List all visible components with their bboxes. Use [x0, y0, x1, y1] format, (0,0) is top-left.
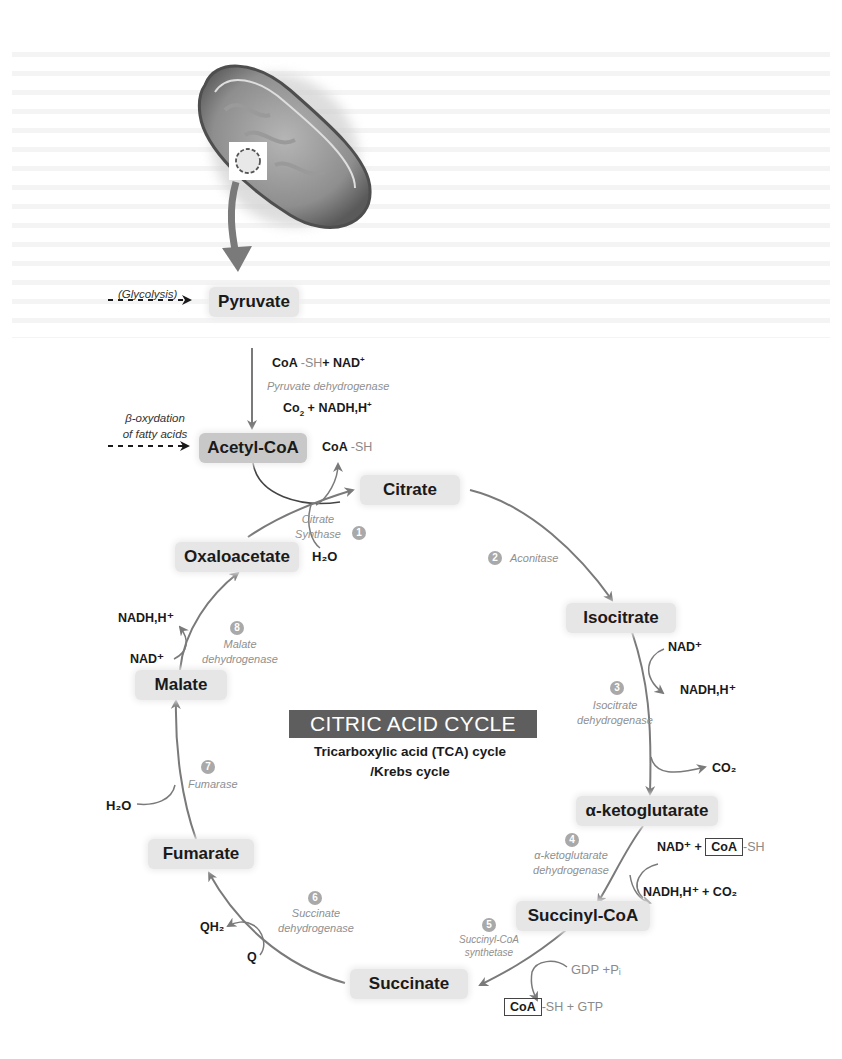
beta-oxidation-label: β-oxydation of fatty acids [110, 410, 200, 442]
pdh-nad: + NAD [322, 356, 360, 370]
step1-enzyme-line1: Citrate [288, 512, 348, 527]
step3-co2: CO₂ [712, 761, 736, 775]
step8-enzyme-line2: dehydrogenase [196, 652, 284, 667]
step7-water: H₂O [106, 798, 131, 813]
node-oxaloacetate: Oxaloacetate [175, 542, 299, 572]
step4-outputs: NADH,H⁺ + CO₂ [643, 884, 737, 899]
step5-enzyme-line2: synthetase [448, 946, 530, 959]
step5-gtp: + GTP [567, 1000, 603, 1014]
step3-nad: NAD⁺ [668, 639, 702, 654]
step4-sh: -SH [743, 840, 765, 854]
step8-nadh: NADH,H⁺ [118, 610, 174, 625]
step8-nad: NAD⁺ [130, 651, 164, 666]
step4-badge: 4 [565, 833, 579, 847]
step4-nad: NAD⁺ + [657, 840, 702, 854]
step1-enzyme: Citrate Synthase [288, 512, 348, 542]
step8-enzyme: Malate dehydrogenase [196, 637, 284, 667]
node-succinate: Succinate [350, 969, 468, 999]
step6-badge: 6 [308, 891, 322, 905]
step1-water: H₂O [312, 549, 337, 564]
subtitle-line2: /Krebs cycle [270, 762, 550, 782]
cycle-title: CITRIC ACID CYCLE [289, 710, 537, 738]
step6-enzyme-line2: dehydrogenase [272, 921, 360, 936]
step6-q: Q [247, 950, 257, 964]
node-isocitrate: Isocitrate [566, 603, 676, 633]
released-coa-sh: -SH [351, 440, 373, 454]
mitochondrion-icon [181, 44, 390, 272]
node-alpha-ketoglutarate: α-ketoglutarate [576, 796, 718, 826]
step5-outputs: CoA-SH + GTP [504, 998, 603, 1016]
pdh-coa: CoA [272, 356, 297, 370]
step4-enzyme-line1: α-ketoglutarate [512, 848, 630, 863]
pdh-nadh: + NADH,H [308, 401, 367, 415]
step8-badge: 8 [230, 621, 244, 635]
pdh-inputs: CoA -SH+ NAD+ [272, 355, 365, 370]
diagram-canvas [0, 0, 842, 1059]
step6-qh2: QH₂ [200, 920, 224, 934]
step5-sh: -SH [542, 1000, 564, 1014]
step5-gdp: GDP +Pᵢ [571, 962, 621, 977]
step3-enzyme: Isocitrate dehydrogenase [570, 698, 660, 728]
pdh-outputs: Co2 + NADH,H+ [283, 400, 372, 418]
subtitle-line1: Tricarboxylic acid (TCA) cycle [270, 742, 550, 762]
step4-coa-box: CoA [705, 838, 743, 856]
step3-badge: 3 [610, 681, 624, 695]
node-succinyl-coa: Succinyl-CoA [516, 901, 650, 931]
beta-oxidation-line2: of fatty acids [110, 426, 200, 442]
step7-enzyme: Fumarase [188, 777, 238, 792]
step4-enzyme: α-ketoglutarate dehydrogenase [512, 848, 630, 878]
beta-oxidation-line1: β-oxydation [110, 410, 200, 426]
node-malate: Malate [135, 670, 227, 700]
step1-badge: 1 [352, 526, 366, 540]
node-fumarate: Fumarate [148, 839, 254, 869]
step2-badge: 2 [488, 551, 502, 565]
step6-enzyme: Succinate dehydrogenase [272, 906, 360, 936]
released-coa-label: CoA [322, 440, 347, 454]
step5-enzyme-line1: Succinyl-CoA [448, 933, 530, 946]
step7-badge: 7 [201, 760, 215, 774]
step2-enzyme: Aconitase [510, 551, 558, 566]
pdh-sh: -SH [301, 356, 323, 370]
step5-enzyme: Succinyl-CoA synthetase [448, 933, 530, 959]
step6-enzyme-line1: Succinate [272, 906, 360, 921]
step3-nadh: NADH,H⁺ [680, 682, 736, 697]
step3-enzyme-line2: dehydrogenase [570, 713, 660, 728]
released-coa: CoA -SH [322, 440, 372, 454]
step5-badge: 5 [482, 918, 496, 932]
node-citrate: Citrate [360, 475, 460, 505]
step1-enzyme-line2: Synthase [288, 527, 348, 542]
pdh-co2: Co [283, 401, 300, 415]
step4-enzyme-line2: dehydrogenase [512, 863, 630, 878]
node-pyruvate: Pyruvate [209, 287, 299, 317]
step3-enzyme-line1: Isocitrate [570, 698, 660, 713]
step8-enzyme-line1: Malate [196, 637, 284, 652]
step5-coa-box: CoA [504, 998, 542, 1016]
glycolysis-label: (Glycolysis) [118, 286, 177, 302]
pdh-enzyme: Pyruvate dehydrogenase [267, 379, 389, 394]
step4-inputs: NAD⁺ + CoA-SH [657, 838, 765, 856]
cycle-subtitle: Tricarboxylic acid (TCA) cycle /Krebs cy… [270, 742, 550, 782]
node-acetyl-coa: Acetyl-CoA [199, 433, 307, 463]
